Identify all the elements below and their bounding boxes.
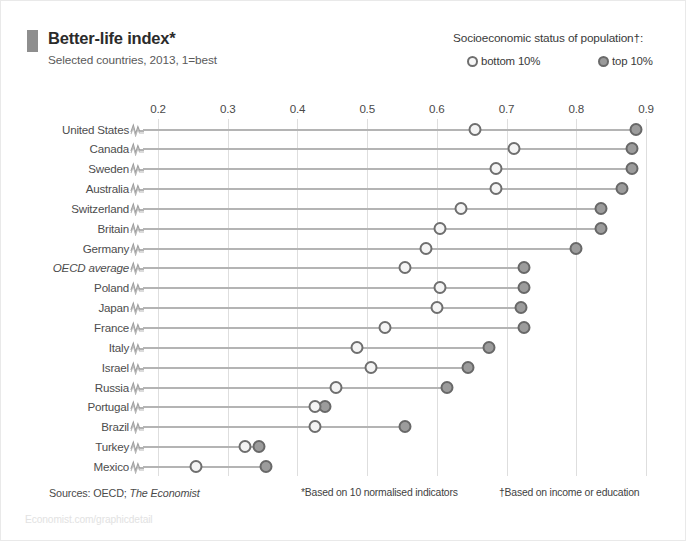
data-point-top[interactable] <box>253 440 266 453</box>
data-point-top[interactable] <box>462 361 475 374</box>
axis-break-icon <box>130 460 144 474</box>
axis-break-icon <box>130 420 144 434</box>
data-point-top[interactable] <box>626 162 639 175</box>
connector-line <box>143 307 527 309</box>
data-point-top[interactable] <box>615 182 628 195</box>
connector-line <box>143 287 530 289</box>
data-point-bottom[interactable] <box>239 440 252 453</box>
data-point-bottom[interactable] <box>399 261 412 274</box>
category-label: Canada <box>90 142 129 155</box>
connector-line <box>143 228 607 230</box>
category-label: Britain <box>98 222 129 235</box>
data-point-top[interactable] <box>629 123 642 136</box>
category-label: Portugal <box>87 400 129 413</box>
chart-row: Mexico <box>1 457 686 477</box>
source-publication: The Economist <box>130 487 200 499</box>
data-point-bottom[interactable] <box>420 242 433 255</box>
axis-break-icon <box>130 440 144 454</box>
connector-line <box>143 406 331 408</box>
data-point-bottom[interactable] <box>364 361 377 374</box>
connector-line <box>143 168 638 170</box>
data-point-bottom[interactable] <box>455 202 468 215</box>
x-axis-tick-label: 0.5 <box>359 102 375 115</box>
category-label: Germany <box>83 242 129 255</box>
data-point-top[interactable] <box>594 202 607 215</box>
connector-line <box>143 129 642 131</box>
connector-line <box>143 387 453 389</box>
chart-row: Russia <box>1 378 686 398</box>
axis-break-icon <box>130 123 144 137</box>
category-label: Japan <box>98 301 129 314</box>
data-point-top[interactable] <box>518 321 531 334</box>
axis-break-icon <box>130 222 144 236</box>
chart-row: Italy <box>1 338 686 358</box>
category-label: Switzerland <box>71 202 129 215</box>
data-point-top[interactable] <box>518 281 531 294</box>
chart-row: Switzerland <box>1 199 686 219</box>
data-point-bottom[interactable] <box>434 222 447 235</box>
data-point-top[interactable] <box>626 142 639 155</box>
chart-row: Germany <box>1 239 686 259</box>
axis-break-icon <box>130 281 144 295</box>
data-point-top[interactable] <box>514 301 527 314</box>
chart-row: Sweden <box>1 159 686 179</box>
data-point-bottom[interactable] <box>490 182 503 195</box>
x-axis-tick-label: 0.8 <box>569 102 585 115</box>
data-point-bottom[interactable] <box>469 123 482 136</box>
connector-line <box>143 367 474 369</box>
footnote-dagger: †Based on income or education <box>499 487 639 498</box>
chart-row: Britain <box>1 219 686 239</box>
data-point-top[interactable] <box>518 261 531 274</box>
data-point-top[interactable] <box>399 420 412 433</box>
chart-row: Portugal <box>1 397 686 417</box>
data-point-bottom[interactable] <box>490 162 503 175</box>
axis-break-icon <box>130 321 144 335</box>
data-point-top[interactable] <box>260 460 273 473</box>
data-point-bottom[interactable] <box>507 142 520 155</box>
connector-line <box>143 208 607 210</box>
chart-plot-area: 0.20.30.40.50.60.70.80.9United StatesCan… <box>1 1 686 541</box>
chart-row: France <box>1 318 686 338</box>
category-label: Mexico <box>93 460 129 473</box>
data-point-top[interactable] <box>570 242 583 255</box>
connector-line <box>143 327 530 329</box>
axis-break-icon <box>130 142 144 156</box>
x-axis-tick-label: 0.3 <box>220 102 236 115</box>
footnote-asterisk: *Based on 10 normalised indicators <box>301 487 458 498</box>
axis-break-icon <box>130 361 144 375</box>
data-point-bottom[interactable] <box>329 381 342 394</box>
chart-row: Canada <box>1 139 686 159</box>
chart-page: Better-life index* Selected countries, 2… <box>0 0 686 541</box>
axis-break-icon <box>130 242 144 256</box>
source-note: Sources: OECD; The Economist <box>49 487 200 499</box>
data-point-bottom[interactable] <box>430 301 443 314</box>
connector-line <box>143 267 530 269</box>
chart-row: Turkey <box>1 437 686 457</box>
x-axis-tick-label: 0.6 <box>429 102 445 115</box>
category-label: Sweden <box>88 162 129 175</box>
data-point-top[interactable] <box>441 381 454 394</box>
category-label: Israel <box>102 361 129 374</box>
axis-break-icon <box>130 301 144 315</box>
data-point-bottom[interactable] <box>190 460 203 473</box>
category-label: Turkey <box>95 440 129 453</box>
data-point-bottom[interactable] <box>434 281 447 294</box>
chart-row: United States <box>1 120 686 140</box>
chart-row: Australia <box>1 179 686 199</box>
chart-row: OECD average <box>1 258 686 278</box>
data-point-top[interactable] <box>594 222 607 235</box>
data-point-bottom[interactable] <box>350 341 363 354</box>
data-point-bottom[interactable] <box>378 321 391 334</box>
source-prefix: Sources: OECD; <box>49 487 127 499</box>
watermark: Economist.com/graphicdetail <box>25 514 153 525</box>
connector-line <box>143 188 628 190</box>
x-axis-tick-label: 0.9 <box>638 102 654 115</box>
connector-line <box>143 426 411 428</box>
data-point-bottom[interactable] <box>308 400 321 413</box>
axis-break-icon <box>130 341 144 355</box>
x-axis-tick-label: 0.2 <box>150 102 166 115</box>
category-label: United States <box>62 123 129 136</box>
data-point-bottom[interactable] <box>308 420 321 433</box>
category-label: OECD average <box>53 261 129 274</box>
data-point-top[interactable] <box>483 341 496 354</box>
